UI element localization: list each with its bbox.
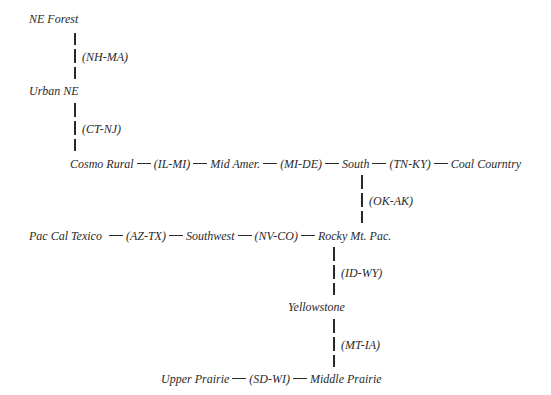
connector-vertical	[74, 139, 76, 151]
edge-id-wy: (ID-WY)	[341, 266, 382, 280]
edge-ct-nj: (CT-NJ)	[82, 122, 121, 136]
connector-vertical	[333, 355, 335, 367]
connector-horizontal	[193, 163, 207, 165]
connector-vertical	[74, 33, 76, 45]
edge-sd-wi: (SD-WI)	[249, 372, 290, 386]
connector-vertical	[74, 67, 76, 79]
node-ne-forest: NE Forest	[29, 12, 78, 26]
connector-horizontal	[434, 163, 448, 165]
node-upper-prairie: Upper Prairie	[161, 372, 229, 386]
edge-mt-ia: (MT-IA)	[341, 338, 380, 352]
node-rocky-mt-pac: Rocky Mt. Pac.	[318, 229, 391, 243]
node-yellowstone: Yellowstone	[288, 300, 345, 314]
row-pac-to-rocky: Pac Cal Texico(AZ-TX)Southwest(NV-CO)Roc…	[29, 228, 391, 243]
edge-nh-ma: (NH-MA)	[82, 50, 128, 64]
row-cosmo-to-coal: Cosmo Rural(IL-MI)Mid Amer.(MI-DE)South(…	[70, 156, 521, 171]
connector-vertical	[333, 319, 335, 333]
connector-vertical	[361, 211, 363, 223]
connector-vertical	[333, 283, 335, 295]
connector-horizontal	[238, 235, 252, 237]
connector-horizontal	[301, 235, 315, 237]
node-cosmo-rural: Cosmo Rural	[70, 157, 134, 171]
connector-vertical	[333, 247, 335, 261]
connector-horizontal	[325, 163, 339, 165]
node-urban-ne: Urban NE	[29, 84, 79, 98]
connector-vertical	[333, 265, 335, 279]
connector-vertical	[74, 49, 76, 63]
connector-horizontal	[293, 378, 307, 380]
node-mid-amer: Mid Amer.	[210, 157, 260, 171]
edge-tn-ky: (TN-KY)	[389, 157, 430, 171]
connector-horizontal	[232, 378, 246, 380]
connector-horizontal	[372, 163, 386, 165]
row-upper-to-middle-prairie: Upper Prairie(SD-WI)Middle Prairie	[161, 371, 382, 386]
connector-vertical	[74, 121, 76, 135]
edge-ok-ak: (OK-AK)	[369, 194, 413, 208]
connector-horizontal	[169, 235, 183, 237]
node-southwest: Southwest	[186, 229, 235, 243]
node-south: South	[342, 157, 369, 171]
node-coal-country: Coal Courntry	[451, 157, 521, 171]
connector-horizontal	[263, 163, 277, 165]
edge-az-tx: (AZ-TX)	[126, 229, 166, 243]
connector-vertical	[361, 175, 363, 189]
edge-il-mi: (IL-MI)	[154, 157, 191, 171]
connector-vertical	[361, 193, 363, 207]
connector-vertical	[333, 337, 335, 351]
edge-mi-de: (MI-DE)	[280, 157, 322, 171]
node-pac-cal-texico: Pac Cal Texico	[29, 229, 102, 243]
connector-vertical	[74, 103, 76, 117]
connector-horizontal	[137, 163, 151, 165]
node-middle-prairie: Middle Prairie	[310, 372, 382, 386]
edge-nv-co: (NV-CO)	[255, 229, 298, 243]
connector-horizontal	[109, 235, 123, 237]
